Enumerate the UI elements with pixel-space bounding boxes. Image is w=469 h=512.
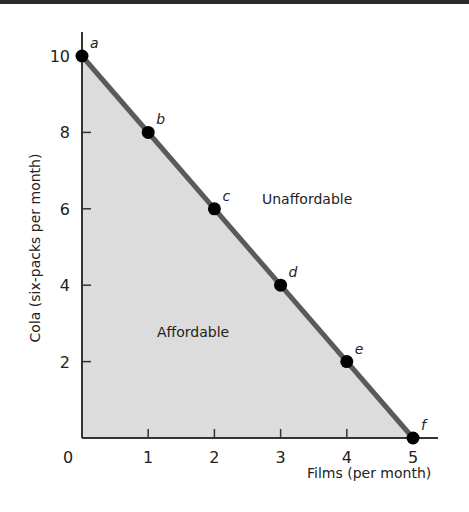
point-label-d: d (289, 264, 298, 280)
budget-line-chart: 012345246810 abcdef Affordable Unafforda… (0, 0, 469, 512)
x-tick-label: 2 (209, 448, 219, 467)
point-a (76, 50, 89, 63)
y-tick-label: 6 (60, 200, 70, 219)
point-e (340, 355, 353, 368)
y-tick-label: 2 (60, 353, 70, 372)
y-tick-label: 4 (60, 276, 70, 295)
point-label-f: f (421, 417, 428, 433)
affordable-label: Affordable (157, 324, 229, 340)
y-tick-label: 8 (60, 123, 70, 142)
x-axis-title: Films (per month) (307, 465, 431, 481)
y-axis-title: Cola (six-packs per month) (27, 154, 43, 343)
point-label-b: b (156, 111, 165, 127)
point-c (208, 202, 221, 215)
point-d (274, 279, 287, 292)
x-tick-label: 0 (63, 448, 73, 467)
y-tick-label: 10 (50, 47, 70, 66)
point-label-a: a (90, 35, 99, 51)
unaffordable-label: Unaffordable (262, 191, 352, 207)
point-label-c: c (222, 188, 230, 204)
point-b (142, 126, 155, 139)
x-tick-label: 1 (143, 448, 153, 467)
point-label-e: e (355, 341, 364, 357)
point-f (407, 432, 420, 445)
x-tick-label: 3 (276, 448, 286, 467)
